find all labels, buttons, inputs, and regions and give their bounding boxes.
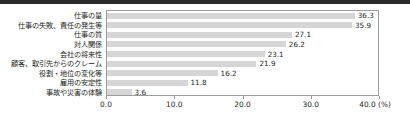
bar-value-label: 36.3 [358,11,374,20]
x-tick-label: 0.0 [100,100,112,109]
category-label: 会社の将来性 [60,50,102,59]
bar-chart: 仕事の量仕事の失敗、責任の発生等仕事の質対人関係会社の将来性顧客、取引先からのク… [0,4,410,120]
x-tick-label: 30.0 [303,100,319,109]
x-tick-mark [243,96,244,99]
bar-value-label: 35.9 [355,21,371,30]
bar-value-label: 26.2 [289,40,305,49]
bar-value-label: 27.1 [295,30,311,39]
x-tick-label: 20.0 [234,100,250,109]
bar-value-label: 23.1 [268,50,284,59]
bar-value-label: 16.2 [221,69,237,78]
x-tick-mark [311,96,312,99]
bar [107,61,256,67]
category-label: 顧客、取引先からのクレーム [11,59,102,68]
bar-value-label: 21.9 [259,59,275,68]
bar [107,32,292,38]
x-tick-mark [106,96,107,99]
x-tick-label: 40.0 (%) [359,100,391,109]
x-tick-label: 10.0 [166,100,182,109]
bar [107,22,352,28]
category-axis-labels: 仕事の量仕事の失敗、責任の発生等仕事の質対人関係会社の将来性顧客、取引先からのク… [0,11,104,95]
bar [107,13,355,19]
category-label: 対人関係 [74,40,102,49]
category-label: 仕事の失敗、責任の発生等 [18,21,102,30]
category-label: 事故や災害の体験 [46,88,102,97]
bar [107,80,188,86]
plot-area: 36.335.927.126.223.121.916.211.83.6 [107,11,378,95]
bar [107,51,265,57]
plot-frame: 36.335.927.126.223.121.916.211.83.6 [106,10,379,96]
bar-value-label: 11.8 [191,78,207,87]
category-label: 仕事の質 [74,30,102,39]
bar [107,89,132,95]
category-label: 雇用の安定性 [60,78,102,87]
bar [107,70,218,76]
x-tick-mark [174,96,175,99]
category-label: 仕事の量 [74,11,102,20]
bar [107,41,286,47]
x-axis: 0.010.020.030.040.0 (%) [106,96,379,118]
x-tick-mark [379,96,380,99]
category-label: 役割・地位の変化等 [39,69,102,78]
